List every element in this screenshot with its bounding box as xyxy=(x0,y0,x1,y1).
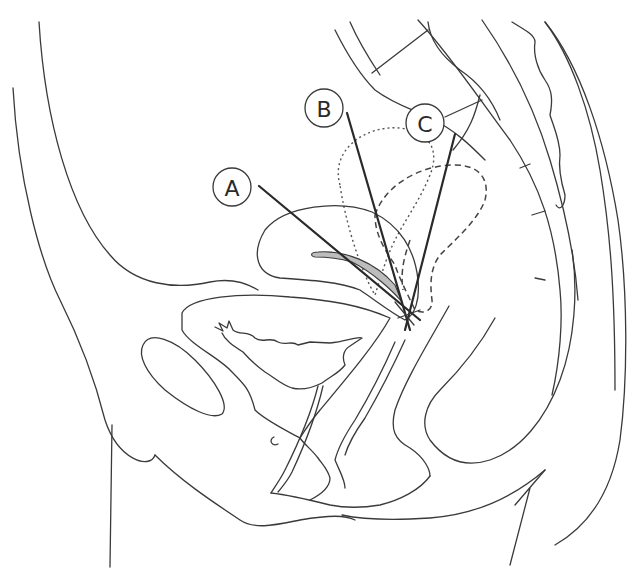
axis-c xyxy=(405,134,455,330)
label-b-text: B xyxy=(316,97,331,122)
sacrum xyxy=(418,20,626,545)
label-a-text: A xyxy=(224,176,239,201)
label-a: A xyxy=(213,168,251,206)
urethra xyxy=(271,386,323,493)
bladder xyxy=(182,295,390,438)
rectum xyxy=(393,250,575,476)
pelvic-anatomy-diagram: A B C xyxy=(0,0,630,580)
axis-b xyxy=(347,113,410,330)
vagina xyxy=(300,340,405,500)
abdominal-wall xyxy=(13,22,355,567)
label-b: B xyxy=(305,89,343,127)
pubic-bone xyxy=(141,338,224,416)
label-c: C xyxy=(406,104,444,142)
label-c-text: C xyxy=(417,112,432,137)
